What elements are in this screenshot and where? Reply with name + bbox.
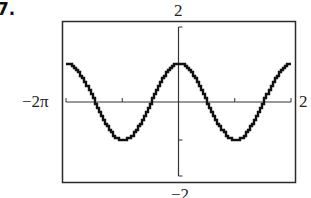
- y-min-label: −2: [171, 186, 189, 198]
- y-max-label: 2: [174, 2, 183, 19]
- x-min-label: −2π: [22, 93, 49, 110]
- x-max-label: 2: [299, 93, 308, 110]
